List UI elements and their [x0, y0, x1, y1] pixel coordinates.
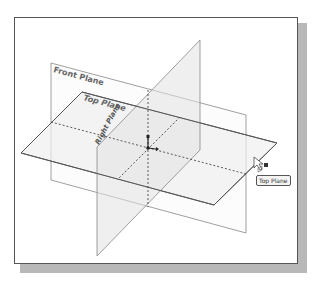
plane-scene[interactable]: Front Plane Top Plane Right Plane — [0, 0, 322, 284]
hover-tooltip: Top Plane — [256, 175, 291, 186]
